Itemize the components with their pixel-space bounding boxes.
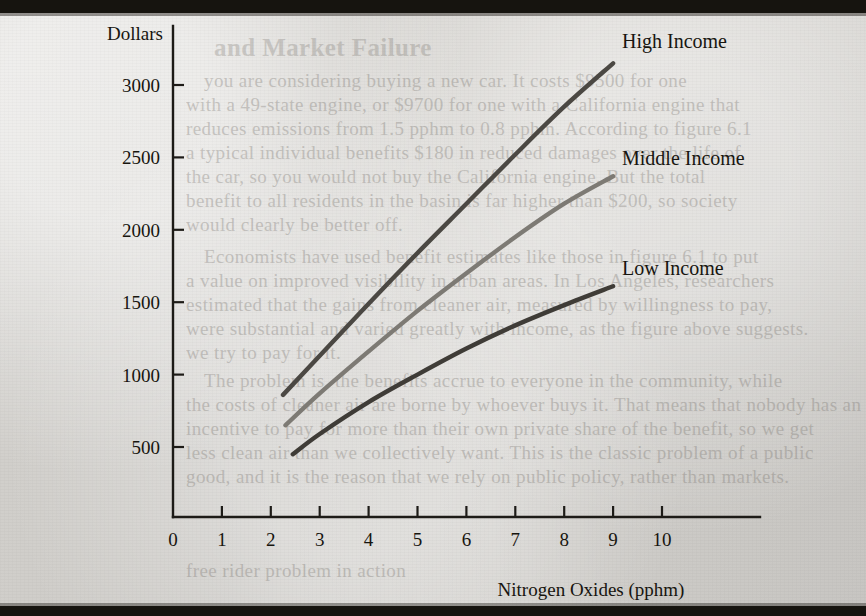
x-tick-label: 4 (364, 529, 374, 550)
x-tick-label: 3 (315, 529, 325, 550)
y-tick-label: 2500 (122, 147, 160, 168)
y-tick-label: 2000 (122, 220, 160, 241)
series-label-middle-income: Middle Income (622, 147, 745, 169)
x-tick-label: 10 (653, 529, 672, 550)
x-tick-label: 8 (559, 529, 569, 550)
series-label-high-income: High Income (622, 30, 727, 53)
x-tick-label: 1 (217, 529, 227, 550)
x-axis-ticks (222, 506, 662, 517)
curve-high-income (283, 63, 613, 395)
curve-low-income (293, 286, 613, 454)
y-axis-ticks (173, 85, 184, 447)
line-chart: 50010001500200025003000 012345678910 Hig… (0, 0, 866, 616)
x-tick-label: 0 (168, 529, 178, 550)
x-tick-label: 6 (462, 529, 472, 550)
series-label-low-income: Low Income (622, 257, 724, 279)
figure-page: and Market Failureyou are considering bu… (0, 0, 866, 616)
x-axis-tick-labels: 012345678910 (168, 529, 671, 550)
y-tick-label: 1000 (122, 365, 160, 386)
x-tick-label: 7 (511, 529, 521, 550)
y-axis-title: Dollars (107, 23, 163, 44)
data-curves (283, 63, 613, 454)
x-tick-label: 2 (266, 529, 276, 550)
y-axis-tick-labels: 50010001500200025003000 (122, 75, 160, 458)
x-tick-label: 9 (608, 529, 618, 550)
y-tick-label: 500 (132, 437, 161, 458)
y-tick-label: 3000 (122, 75, 160, 96)
y-tick-label: 1500 (122, 292, 160, 313)
series-labels: High IncomeMiddle IncomeLow Income (622, 30, 745, 279)
x-axis-title: Nitrogen Oxides (pphm) (498, 579, 685, 601)
curve-middle-income (285, 176, 613, 425)
x-tick-label: 5 (413, 529, 423, 550)
